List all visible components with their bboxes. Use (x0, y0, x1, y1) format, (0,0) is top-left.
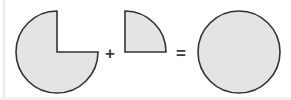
shape-full-disc (198, 11, 280, 93)
figure-canvas: Three-quarter disc plus quarter disc equ… (0, 0, 291, 100)
shape-three-quarter-disc (16, 11, 98, 93)
shape-quarter-disc (125, 11, 166, 52)
equals-operator: = (176, 44, 186, 63)
plus-operator: + (105, 44, 115, 63)
geometry-equation-diagram: Three-quarter disc plus quarter disc equ… (0, 0, 291, 100)
